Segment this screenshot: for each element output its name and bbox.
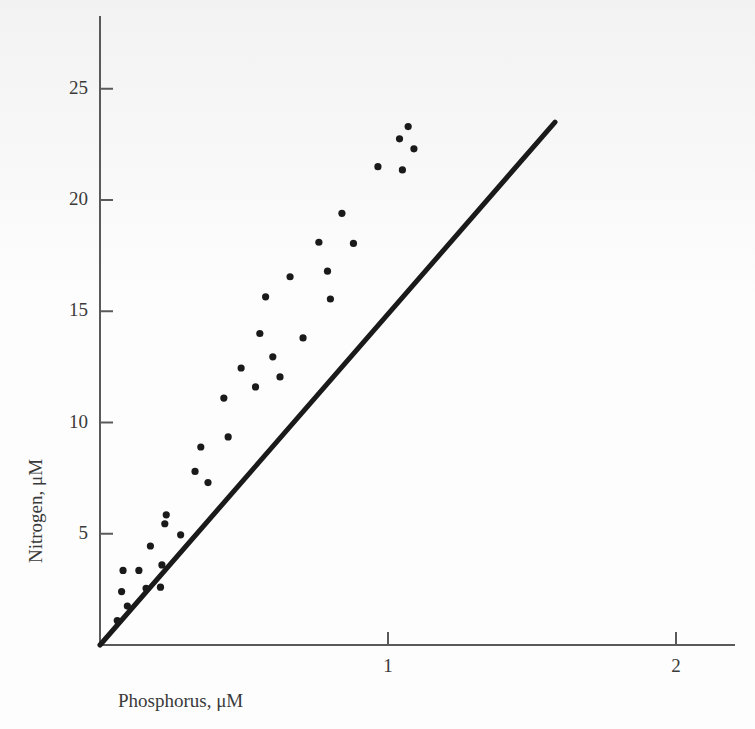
data-point: [374, 163, 381, 170]
y-tick-label: 10: [48, 411, 88, 433]
data-point: [315, 239, 322, 246]
x-tick-label: 1: [368, 655, 408, 677]
data-point: [157, 584, 164, 591]
data-point: [197, 443, 204, 450]
data-points: [114, 123, 418, 624]
data-point: [399, 166, 406, 173]
data-point: [114, 617, 121, 624]
y-tick-label: 25: [48, 77, 88, 99]
data-point: [252, 383, 259, 390]
data-point: [163, 511, 170, 518]
y-axis-ticks: [100, 89, 113, 534]
x-axis-ticks: [388, 632, 676, 645]
data-point: [299, 334, 306, 341]
data-point: [135, 567, 142, 574]
data-point: [161, 520, 168, 527]
data-point: [327, 295, 334, 302]
data-point: [119, 567, 126, 574]
y-axis-label: Nitrogen, μM: [25, 441, 47, 581]
data-point: [269, 353, 276, 360]
x-tick-label: 2: [656, 655, 696, 677]
y-tick-label: 15: [48, 299, 88, 321]
y-tick-label: 20: [48, 188, 88, 210]
data-point: [350, 240, 357, 247]
data-point: [124, 602, 131, 609]
data-point: [158, 561, 165, 568]
data-point: [147, 542, 154, 549]
regression-line-segment: [100, 122, 555, 645]
data-point: [256, 330, 263, 337]
data-point: [142, 585, 149, 592]
data-point: [238, 364, 245, 371]
data-point: [262, 293, 269, 300]
plot-canvas: [0, 0, 755, 729]
data-point: [177, 531, 184, 538]
data-point: [204, 479, 211, 486]
y-tick-label: 5: [48, 522, 88, 544]
scatter-plot-figure: Nitrogen, μM Phosphorus, μM 510152025 12: [0, 0, 755, 729]
data-point: [405, 123, 412, 130]
data-point: [220, 394, 227, 401]
data-point: [410, 145, 417, 152]
data-point: [225, 433, 232, 440]
data-point: [276, 373, 283, 380]
data-point: [338, 210, 345, 217]
x-axis-label: Phosphorus, μM: [118, 690, 243, 712]
data-point: [118, 588, 125, 595]
data-point: [286, 273, 293, 280]
data-point: [191, 468, 198, 475]
data-point: [324, 268, 331, 275]
regression-line: [100, 122, 555, 645]
data-point: [396, 135, 403, 142]
